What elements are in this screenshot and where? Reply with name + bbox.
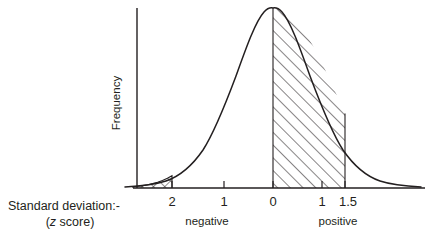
y-axis-label: Frequency [110, 76, 122, 131]
positive-side-label: positive [319, 215, 358, 227]
caption-score-text: score) [56, 215, 94, 229]
x-tick-label-pos1: 1 [318, 194, 325, 209]
right-area-hatch-fill [270, 4, 350, 190]
x-tick-label-pos1p5: 1.5 [339, 194, 357, 209]
negative-side-label: negative [185, 215, 228, 227]
normal-distribution-figure: Frequency 2 1 0 1 1.5 negative positive … [0, 0, 432, 242]
right-hatched-region [270, 4, 350, 190]
x-tick-label-neg1: 1 [220, 194, 227, 209]
caption-line-1: Standard deviation:- [8, 199, 120, 213]
caption-line-2: (z score) [46, 215, 95, 229]
x-tick-label-zero: 0 [269, 194, 276, 209]
x-tick-label-neg2: 2 [168, 194, 175, 209]
